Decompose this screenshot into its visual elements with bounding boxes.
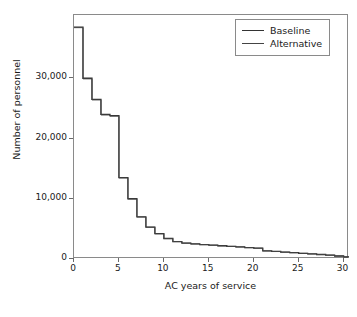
y-tick-label: 20,000 [15, 132, 67, 142]
series-line-baseline [74, 27, 349, 257]
y-tick-label: 0 [15, 252, 67, 262]
y-tick-mark [69, 198, 73, 199]
legend-swatch [242, 30, 264, 31]
x-tick-mark [343, 258, 344, 262]
chart-legend: BaselineAlternative [235, 19, 330, 56]
x-axis-title: AC years of service [73, 280, 348, 291]
legend-item: Alternative [242, 37, 322, 50]
chart-figure: Number of personnel 010,00020,00030,000 … [0, 0, 357, 317]
y-tick-label: 10,000 [15, 192, 67, 202]
series-layer [74, 27, 349, 257]
y-tick-mark [69, 138, 73, 139]
y-tick-mark [69, 77, 73, 78]
x-tick-label: 30 [328, 263, 357, 273]
x-tick-mark [208, 258, 209, 262]
x-tick-label: 10 [148, 263, 178, 273]
x-tick-label: 15 [193, 263, 223, 273]
x-tick-label: 20 [238, 263, 268, 273]
y-tick-label: 30,000 [15, 71, 67, 81]
y-axis-title: Number of personnel [11, 30, 22, 190]
x-tick-mark [118, 258, 119, 262]
series-line-alternative [74, 28, 349, 257]
legend-label: Baseline [270, 25, 310, 36]
x-tick-mark [253, 258, 254, 262]
legend-swatch [242, 43, 264, 44]
x-tick-label: 5 [103, 263, 133, 273]
x-tick-mark [73, 258, 74, 262]
x-tick-mark [163, 258, 164, 262]
chart-title [60, 0, 310, 3]
x-tick-mark [298, 258, 299, 262]
legend-item: Baseline [242, 24, 322, 37]
legend-label: Alternative [270, 38, 322, 49]
x-tick-label: 25 [283, 263, 313, 273]
x-tick-label: 0 [58, 263, 88, 273]
